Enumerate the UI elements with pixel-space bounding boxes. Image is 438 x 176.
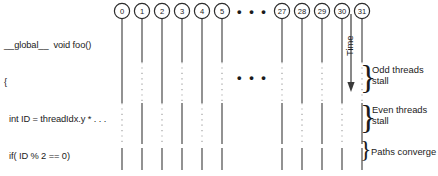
brace-paths-converge: } bbox=[360, 137, 372, 161]
thread-id-badge: 2 bbox=[154, 3, 169, 18]
thread-id-text: 28 bbox=[298, 7, 306, 16]
thread-id-text: 5 bbox=[220, 7, 224, 16]
thread-ellipsis-middle: • • • bbox=[237, 71, 268, 84]
thread-id-text: 30 bbox=[338, 7, 346, 16]
thread-id-badge: 0 bbox=[114, 3, 129, 18]
thread-id-text: 2 bbox=[160, 7, 164, 16]
thread-lanes bbox=[122, 19, 362, 170]
annotation-paths-converge: Paths converge bbox=[371, 146, 436, 157]
thread-id-badge: 29 bbox=[314, 3, 329, 18]
annotation-even-stall: Even threads stall bbox=[372, 104, 427, 126]
thread-id-text: 3 bbox=[180, 7, 184, 16]
time-axis-label: Time bbox=[344, 36, 355, 56]
thread-id-badge: 28 bbox=[294, 3, 309, 18]
thread-id-text: 4 bbox=[200, 7, 204, 16]
thread-id-badge: 4 bbox=[194, 3, 209, 18]
thread-id-text: 31 bbox=[358, 7, 366, 16]
thread-id-text: 1 bbox=[140, 7, 144, 16]
thread-id-badge: 1 bbox=[134, 3, 149, 18]
thread-id-text: 27 bbox=[278, 7, 286, 16]
annotation-odd-stall: Odd threads stall bbox=[372, 64, 424, 86]
thread-id-badge: 5 bbox=[214, 3, 229, 18]
thread-id-text: 0 bbox=[120, 7, 124, 16]
thread-id-badge: 30 bbox=[334, 3, 349, 18]
thread-id-badge: 3 bbox=[174, 3, 189, 18]
thread-ellipsis-top: • • • bbox=[237, 5, 268, 18]
warp-divergence-figure: __global__ void foo() { int ID = threadI… bbox=[0, 0, 438, 176]
thread-id-badge: 31 bbox=[354, 3, 369, 18]
thread-id-badge: 27 bbox=[274, 3, 289, 18]
thread-id-text: 29 bbox=[318, 7, 326, 16]
